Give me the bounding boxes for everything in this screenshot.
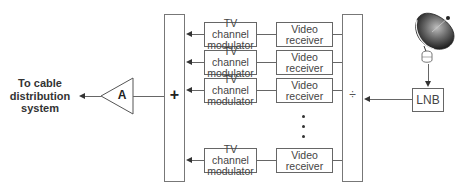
receiver-line-2: receiver: [286, 63, 323, 74]
splitter-symbol: ÷: [342, 88, 363, 102]
lnb-label: LNB: [416, 95, 439, 106]
modulator-line-1: TV channel: [205, 74, 256, 96]
receiver-modulator-connector: [257, 62, 276, 63]
dish-lnb-connector: [428, 64, 429, 82]
video-receiver: Video receiver: [276, 50, 333, 75]
modulator-combiner-connector: [190, 90, 204, 91]
ellipsis-dot: [302, 135, 305, 138]
arrowhead-icon: [186, 87, 192, 93]
output-connector: [84, 96, 101, 97]
satellite-dish-icon: [410, 6, 460, 66]
receiver-modulator-connector: [257, 160, 276, 161]
splitter-receiver-connector: [333, 90, 342, 91]
combiner-symbol: +: [164, 86, 185, 104]
arrowhead-icon: [186, 59, 192, 65]
amplifier-label: A: [115, 88, 129, 102]
modulator-line-1: TV channel: [205, 18, 256, 40]
modulator-line-2: modulator: [207, 166, 254, 177]
splitter-receiver-connector: [333, 160, 342, 161]
output-label-line-2: distribution: [8, 90, 72, 103]
modulator-combiner-connector: [190, 160, 204, 161]
output-arrowhead-icon: [79, 93, 85, 99]
modulator-combiner-connector: [190, 34, 204, 35]
receiver-line-2: receiver: [286, 161, 323, 172]
receiver-line-1: Video: [291, 52, 318, 63]
arrowhead-down-icon: [425, 81, 431, 87]
receiver-line-2: receiver: [286, 91, 323, 102]
receiver-line-1: Video: [291, 80, 318, 91]
tv-channel-modulator: TV channel modulator: [204, 22, 257, 47]
splitter-receiver-connector: [333, 34, 342, 35]
tv-channel-modulator: TV channel modulator: [204, 148, 257, 173]
lnb-splitter-connector: [369, 99, 412, 100]
tv-channel-modulator: TV channel modulator: [204, 50, 257, 75]
splitter-receiver-connector: [333, 62, 342, 63]
video-receiver: Video receiver: [276, 148, 333, 173]
modulator-line-2: modulator: [207, 96, 254, 107]
modulator-line-1: TV channel: [205, 46, 256, 68]
lnb-box: LNB: [412, 88, 444, 112]
arrowhead-icon: [186, 157, 192, 163]
receiver-modulator-connector: [257, 34, 276, 35]
receiver-line-2: receiver: [286, 35, 323, 46]
arrowhead-icon: [364, 96, 370, 102]
receiver-line-1: Video: [291, 24, 318, 35]
output-label: To cable distribution system: [8, 77, 72, 115]
arrowhead-icon: [186, 31, 192, 37]
amp-combiner-connector: [133, 96, 164, 97]
receiver-modulator-connector: [257, 90, 276, 91]
output-label-line-3: system: [8, 102, 72, 115]
ellipsis-dot: [302, 125, 305, 128]
output-label-line-1: To cable: [8, 77, 72, 90]
modulator-combiner-connector: [190, 62, 204, 63]
modulator-line-1: TV channel: [205, 144, 256, 166]
video-receiver: Video receiver: [276, 22, 333, 47]
ellipsis-dot: [302, 115, 305, 118]
video-receiver: Video receiver: [276, 78, 333, 103]
receiver-line-1: Video: [291, 150, 318, 161]
tv-channel-modulator: TV channel modulator: [204, 78, 257, 103]
